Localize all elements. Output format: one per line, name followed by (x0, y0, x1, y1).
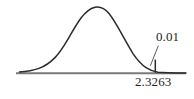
critical-value-label: 2.3263 (135, 75, 171, 88)
tail-area-label: 0.01 (156, 30, 179, 43)
normal-curve-figure: 0.01 2.3263 (0, 0, 194, 99)
annotation-leader-line (151, 46, 159, 65)
